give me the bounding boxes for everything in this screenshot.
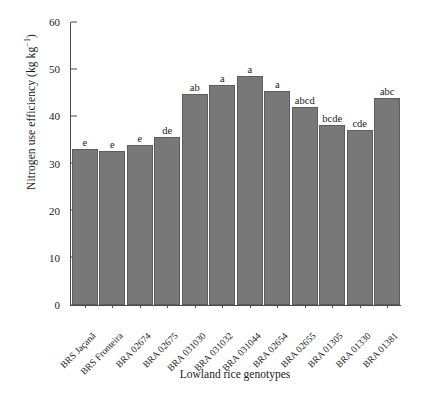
bar-annotation: e: [110, 138, 115, 151]
plot-area: 6050403020100 eeedeabaaaabcdbcdecdeabc B…: [70, 22, 401, 306]
bar-annotation: e: [82, 136, 87, 149]
y-axis-tick-mark: [71, 115, 77, 116]
x-axis-title: Lowland rice genotypes: [70, 366, 400, 382]
y-axis-tick-label: 0: [30, 297, 60, 313]
bar: cde: [347, 130, 373, 305]
x-axis-tick-mark: [112, 305, 113, 308]
y-axis-tick-mark: [71, 21, 77, 22]
y-axis-tick-mark: [71, 68, 77, 69]
bar: bcde: [319, 125, 345, 305]
x-axis-tick-mark: [250, 305, 251, 308]
bar: de: [154, 137, 180, 305]
bar-annotation: a: [247, 63, 252, 76]
bar-annotation: a: [220, 72, 225, 85]
bar-annotation: de: [162, 124, 172, 137]
y-axis-title-tail: ): [25, 34, 37, 38]
bar-annotation: cde: [352, 117, 367, 130]
bar: a: [209, 85, 235, 305]
y-axis-tick-label: 30: [30, 155, 60, 171]
bar-annotation: abcd: [295, 94, 315, 107]
bar: a: [237, 76, 263, 305]
bar: abc: [374, 98, 400, 305]
x-axis-tick-mark: [360, 305, 361, 308]
bar-annotation: e: [137, 132, 142, 145]
x-axis-tick-mark: [195, 305, 196, 308]
x-axis-tick-mark: [167, 305, 168, 308]
x-axis-tick-mark: [85, 305, 86, 308]
bar-annotation: a: [275, 78, 280, 91]
x-axis-tick-mark: [140, 305, 141, 308]
y-axis-tick-label: 20: [30, 202, 60, 218]
bar: a: [264, 91, 290, 305]
x-axis-tick-mark: [277, 305, 278, 308]
bar: e: [127, 145, 153, 305]
x-axis-tick-mark: [305, 305, 306, 308]
x-axis-tick-mark: [387, 305, 388, 308]
x-axis-tick-mark: [332, 305, 333, 308]
chart-figure: Nitrogen use efficiency (kg kg−1) 605040…: [0, 0, 448, 397]
bar: abcd: [292, 107, 318, 305]
bar-annotation: abc: [380, 85, 395, 98]
bar: ab: [182, 94, 208, 305]
y-axis-title: Nitrogen use efficiency (kg kg−1): [22, 0, 40, 262]
y-axis-tick-label: 10: [30, 249, 60, 265]
bar-annotation: bcde: [322, 112, 342, 125]
y-axis-title-superscript: −1: [23, 38, 32, 47]
bar: e: [99, 151, 125, 305]
y-axis-tick-label: 60: [30, 14, 60, 30]
y-axis-tick-label: 40: [30, 108, 60, 124]
x-axis-tick-mark: [222, 305, 223, 308]
bar: e: [72, 149, 98, 305]
y-axis-tick-label: 50: [30, 61, 60, 77]
bar-annotation: ab: [190, 81, 200, 94]
